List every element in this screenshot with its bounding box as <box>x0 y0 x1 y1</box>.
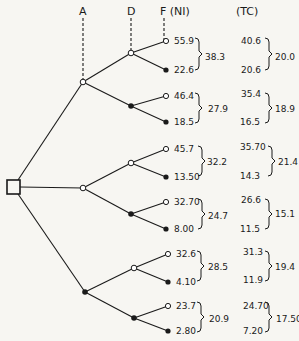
ni-value-low: 8.00 <box>174 224 194 234</box>
decision-tree-diagram: A D F (NI) (TC) 55.9 22.6 38.3 40.6 20.6… <box>0 0 299 341</box>
tc-value-low: 20.6 <box>241 65 261 75</box>
ni-value-high: 45.7 <box>174 144 194 154</box>
header-D: D <box>127 5 135 18</box>
chance-node-open <box>128 50 134 56</box>
ni-average: 28.5 <box>208 262 228 272</box>
outcome-group: 32.6 4.10 28.5 31.3 11.9 19.4 <box>176 247 295 287</box>
chance-node-filled <box>128 103 134 109</box>
chance-node-filled <box>128 211 134 217</box>
chance-node-filled <box>131 315 137 321</box>
tc-value-high: 35.4 <box>241 89 261 99</box>
header-A: A <box>79 5 87 18</box>
tc-value-low: 16.5 <box>240 117 260 127</box>
ni-value-high: 32.6 <box>176 249 196 259</box>
tc-value-high: 35.70 <box>240 142 266 152</box>
ni-value-high: 46.4 <box>174 91 194 101</box>
chance-node-filled <box>82 289 88 295</box>
brackets <box>195 38 275 332</box>
ni-value-low: 4.10 <box>176 277 196 287</box>
outcome-group: 32.70 8.00 24.7 26.6 11.5 15.1 <box>174 195 295 234</box>
tc-value-high: 31.3 <box>243 247 263 257</box>
tc-average: 18.9 <box>275 104 295 114</box>
leaf-nodes <box>163 38 170 333</box>
tc-value-low: 14.3 <box>240 171 260 181</box>
outcome-group: 45.7 13.50 32.2 35.70 14.3 21.4 <box>174 142 298 182</box>
ni-value-low: 18.5 <box>174 117 194 127</box>
ni-value-low: 22.6 <box>174 65 194 75</box>
tc-average: 17.50 <box>276 314 299 324</box>
ni-average: 38.3 <box>205 52 225 62</box>
chance-node-open <box>80 185 86 191</box>
tc-value-low: 11.5 <box>240 224 260 234</box>
chance-node-open <box>131 265 137 271</box>
outcome-group: 23.7 2.80 20.9 24.70 7.20 17.50 <box>176 301 299 336</box>
chance-node-open <box>80 79 86 85</box>
tc-average: 19.4 <box>275 262 295 272</box>
chance-node-open <box>128 160 134 166</box>
outcome-group: 55.9 22.6 38.3 40.6 20.6 20.0 <box>174 36 295 75</box>
ni-average: 32.2 <box>207 157 227 167</box>
tc-value-low: 11.9 <box>243 275 263 285</box>
tc-value-high: 40.6 <box>241 36 261 46</box>
tc-average: 15.1 <box>275 209 295 219</box>
ni-value-low: 2.80 <box>176 326 196 336</box>
tc-value-high: 24.70 <box>243 301 269 311</box>
tc-value-low: 7.20 <box>243 326 263 336</box>
header-TC: (TC) <box>236 5 258 18</box>
tc-average: 21.4 <box>278 157 298 167</box>
ni-value-high: 32.70 <box>174 197 200 207</box>
ni-average: 24.7 <box>208 211 228 221</box>
tc-average: 20.0 <box>275 52 295 62</box>
root-decision-node <box>7 180 20 194</box>
tc-value-high: 26.6 <box>241 195 261 205</box>
ni-value-high: 23.7 <box>176 301 196 311</box>
ni-average: 27.9 <box>208 104 228 114</box>
ni-value-low: 13.50 <box>174 172 200 182</box>
outcome-group: 46.4 18.5 27.9 35.4 16.5 18.9 <box>174 89 295 127</box>
ni-average: 20.9 <box>209 314 229 324</box>
ni-value-high: 55.9 <box>174 36 194 46</box>
header-F-NI: F (NI) <box>160 5 190 18</box>
